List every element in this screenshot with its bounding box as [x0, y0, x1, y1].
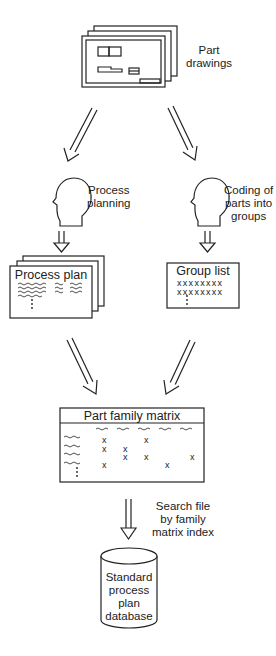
matrix-mark: x — [165, 459, 170, 472]
label-line: Search file — [152, 500, 214, 513]
label-line: Process — [87, 184, 130, 197]
matrix-mark: x — [144, 434, 149, 447]
label-line: plan — [101, 597, 157, 610]
label-line: database — [101, 610, 157, 623]
label-line: parts into — [224, 197, 273, 210]
part-family-matrix-title: Part family matrix — [60, 409, 204, 423]
arrow-to-process-planning-icon — [64, 108, 97, 161]
group-list-title: Group list — [167, 264, 239, 278]
group-list-rows: xxxxxxxx xxxxxxxx — [177, 279, 223, 297]
arrow-matrix-to-database-icon — [121, 499, 136, 539]
arrow-to-coding-icon — [168, 106, 197, 160]
head-icon-process-planning — [53, 178, 91, 226]
process-plan-title: Process plan — [10, 268, 92, 282]
label-line: Standard — [101, 571, 157, 584]
part-drawings-icon — [82, 26, 177, 87]
database-label: Standard process plan database — [101, 571, 157, 623]
process-plan-stack — [10, 256, 104, 318]
coding-label: Coding of parts into groups — [224, 184, 273, 223]
group-list-row: xxxxxxxx — [177, 288, 223, 297]
label-line: planning — [87, 197, 130, 210]
matrix-mark: x — [102, 443, 107, 456]
process-planning-label: Process planning — [87, 184, 130, 210]
label-line: groups — [224, 210, 273, 223]
arrow-to-process-plan-icon — [54, 231, 69, 252]
arrow-to-group-list-icon — [200, 231, 215, 252]
part-drawings-label: Part drawings — [186, 44, 232, 70]
search-step-label: Search file by family matrix index — [152, 500, 214, 539]
label-line: by family — [152, 513, 214, 526]
label-line: process — [101, 584, 157, 597]
arrow-process-plan-to-matrix-icon — [67, 338, 97, 394]
matrix-mark: x — [123, 451, 128, 464]
diagram-canvas — [0, 0, 276, 656]
label-line: drawings — [186, 57, 232, 70]
label-line: matrix index — [152, 526, 214, 539]
matrix-mark: x — [144, 451, 149, 464]
arrow-group-list-to-matrix-icon — [164, 340, 195, 394]
label-line: Part — [186, 44, 232, 57]
label-line: Coding of — [224, 184, 273, 197]
matrix-mark: x — [102, 459, 107, 472]
matrix-mark: x — [190, 451, 195, 464]
